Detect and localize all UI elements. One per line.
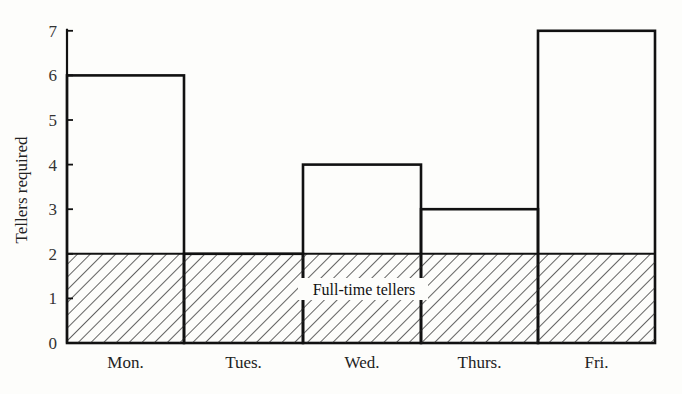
annotation: Full-time tellers <box>298 278 428 300</box>
y-tick-label: 0 <box>49 334 58 353</box>
x-category-label: Wed. <box>345 353 380 372</box>
y-tick-label: 7 <box>49 22 58 41</box>
x-axis-labels: Mon.Tues.Wed.Thurs.Fri. <box>107 353 608 372</box>
x-category-label: Mon. <box>107 353 143 372</box>
y-tick-label: 1 <box>49 289 58 308</box>
bar-chart: 01234567 Mon.Tues.Wed.Thurs.Fri. Full-ti… <box>0 0 682 394</box>
y-tick-label: 2 <box>49 245 58 264</box>
x-category-label: Thurs. <box>458 353 502 372</box>
y-tick-label: 6 <box>49 66 58 85</box>
y-tick-label: 3 <box>49 200 58 219</box>
y-tick-label: 4 <box>49 156 58 175</box>
x-category-label: Tues. <box>225 353 262 372</box>
full-time-tellers-label: Full-time tellers <box>313 281 416 298</box>
y-tick-label: 5 <box>49 111 58 130</box>
x-category-label: Fri. <box>584 353 608 372</box>
